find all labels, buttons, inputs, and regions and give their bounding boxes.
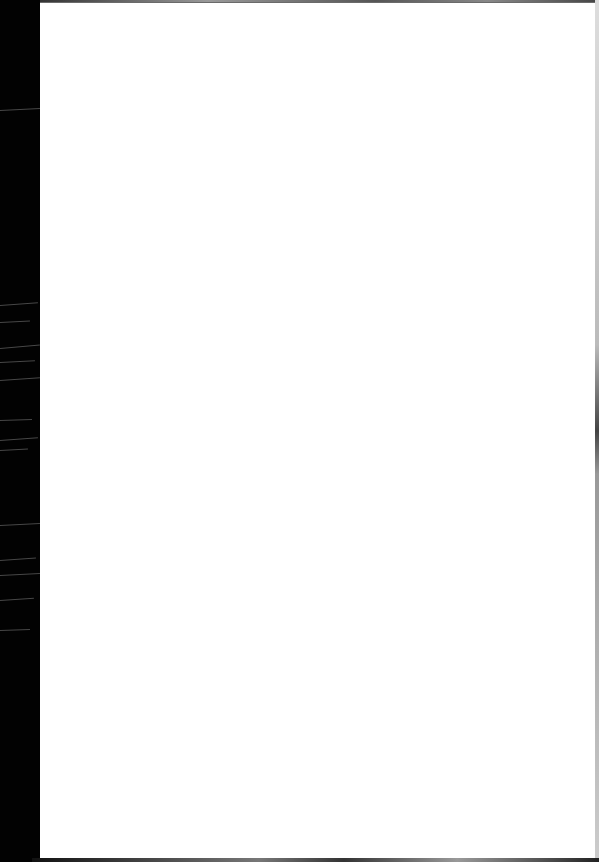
scan-streak: [0, 573, 40, 576]
scan-streak: [0, 598, 34, 601]
scan-streak: [0, 437, 38, 441]
scan-streak: [0, 449, 28, 451]
page-bottom-edge: [32, 858, 599, 862]
scan-streak: [0, 377, 40, 381]
scan-streak: [0, 419, 32, 421]
scan-streak: [0, 523, 40, 526]
blank-page: [40, 2, 596, 860]
scan-streak: [0, 629, 30, 631]
scan-streak: [0, 108, 40, 111]
scan-streak: [0, 360, 35, 363]
scan-streak: [0, 345, 40, 349]
scan-streak: [0, 557, 36, 561]
scan-streak: [0, 320, 30, 323]
scanner-bed-edge: [0, 0, 41, 862]
page-right-edge: [595, 0, 599, 862]
scan-streak: [0, 302, 38, 306]
